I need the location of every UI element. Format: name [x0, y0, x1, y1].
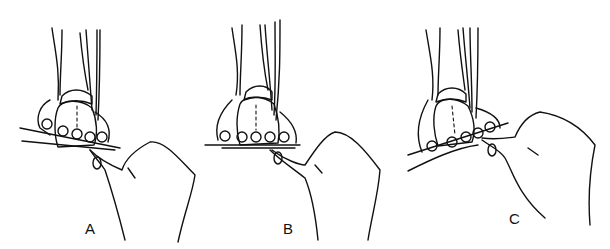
panel-b-drawing	[205, 20, 380, 240]
panel-a-drawing	[20, 28, 195, 242]
panel-c-drawing	[408, 28, 595, 225]
panel-label-b: B	[283, 220, 293, 237]
panel-label-c: C	[509, 210, 520, 227]
panel-label-a: A	[85, 220, 95, 237]
